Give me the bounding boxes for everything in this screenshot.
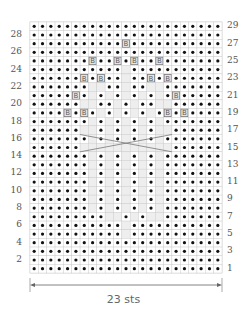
purl-dot: [99, 103, 102, 106]
row-number-5: 5: [227, 229, 233, 238]
purl-dot: [49, 241, 52, 244]
purl-dot: [66, 25, 69, 28]
purl-dot: [91, 267, 94, 270]
purl-dot: [33, 258, 36, 261]
purl-dot: [58, 241, 61, 244]
purl-dot: [99, 232, 102, 235]
purl-dot: [41, 198, 44, 201]
purl-dot: [49, 232, 52, 235]
purl-dot: [33, 111, 36, 114]
purl-dot: [133, 51, 136, 54]
purl-dot: [58, 250, 61, 253]
purl-dot: [74, 137, 77, 140]
purl-dot: [58, 155, 61, 158]
purl-dot: [183, 42, 186, 45]
purl-dot: [66, 120, 69, 123]
row-number-6: 6: [6, 220, 22, 229]
purl-dot: [83, 51, 86, 54]
purl-dot: [58, 59, 61, 62]
purl-dot: [33, 206, 36, 209]
purl-dot: [216, 120, 219, 123]
row-number-25: 25: [227, 56, 238, 65]
svg-text:B: B: [74, 92, 78, 99]
purl-dot: [49, 85, 52, 88]
purl-dot: [83, 215, 86, 218]
purl-dot: [66, 129, 69, 132]
purl-dot: [208, 198, 211, 201]
row-number-14: 14: [6, 151, 22, 160]
purl-dot: [83, 189, 86, 192]
purl-dot: [49, 120, 52, 123]
purl-dot: [133, 77, 136, 80]
purl-dot: [41, 258, 44, 261]
purl-dot: [116, 25, 119, 28]
purl-dot: [74, 129, 77, 132]
purl-dot: [141, 51, 144, 54]
purl-dot: [58, 120, 61, 123]
purl-dot: [124, 51, 127, 54]
row-number-23: 23: [227, 73, 238, 82]
chart-row-18: [30, 117, 222, 126]
purl-dot: [49, 250, 52, 253]
purl-dot: [183, 94, 186, 97]
purl-dot: [216, 85, 219, 88]
purl-dot: [58, 103, 61, 106]
purl-dot: [49, 42, 52, 45]
purl-dot: [66, 267, 69, 270]
purl-dot: [49, 137, 52, 140]
purl-dot: [58, 137, 61, 140]
purl-dot: [200, 198, 203, 201]
purl-dot: [174, 224, 177, 227]
purl-dot: [183, 51, 186, 54]
purl-dot: [158, 51, 161, 54]
purl-dot: [66, 33, 69, 36]
purl-dot: [141, 59, 144, 62]
chart-row-14: [30, 152, 222, 161]
purl-dot: [183, 137, 186, 140]
purl-dot: [74, 25, 77, 28]
purl-dot: [41, 25, 44, 28]
purl-dot: [116, 85, 119, 88]
purl-dot: [74, 181, 77, 184]
purl-dot: [166, 215, 169, 218]
chart-row-29: [30, 22, 222, 31]
purl-dot: [183, 103, 186, 106]
purl-dot: [183, 120, 186, 123]
purl-dot: [141, 224, 144, 227]
purl-dot: [166, 42, 169, 45]
purl-dot: [99, 241, 102, 244]
chart-row-1: [30, 264, 222, 273]
purl-dot: [166, 155, 169, 158]
purl-dot: [208, 120, 211, 123]
purl-dot: [149, 250, 152, 253]
purl-dot: [208, 111, 211, 114]
purl-dot: [166, 25, 169, 28]
purl-dot: [133, 68, 136, 71]
purl-dot: [133, 258, 136, 261]
purl-dot: [116, 232, 119, 235]
purl-dot: [141, 250, 144, 253]
chart-row-19: BBBB: [30, 109, 222, 118]
purl-dot: [99, 189, 102, 192]
purl-dot: [174, 241, 177, 244]
purl-dot: [116, 68, 119, 71]
purl-dot: [133, 198, 136, 201]
purl-dot: [183, 33, 186, 36]
purl-dot: [191, 59, 194, 62]
purl-dot: [216, 77, 219, 80]
purl-dot: [183, 224, 186, 227]
purl-dot: [74, 224, 77, 227]
svg-text:B: B: [157, 57, 161, 64]
purl-dot: [191, 215, 194, 218]
purl-dot: [99, 163, 102, 166]
purl-dot: [208, 250, 211, 253]
purl-dot: [166, 33, 169, 36]
purl-dot: [91, 77, 94, 80]
purl-dot: [33, 189, 36, 192]
purl-dot: [116, 129, 119, 132]
purl-dot: [99, 215, 102, 218]
purl-dot: [191, 146, 194, 149]
purl-dot: [200, 120, 203, 123]
purl-dot: [58, 25, 61, 28]
purl-dot: [33, 232, 36, 235]
